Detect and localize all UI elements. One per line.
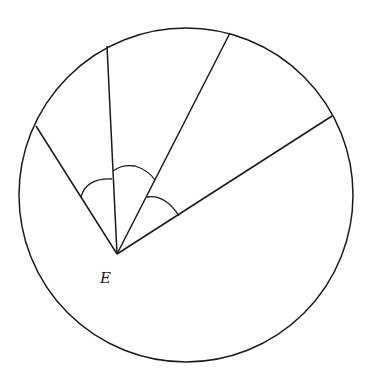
angle-mark-1: [81, 179, 112, 197]
angle-mark-2: [113, 166, 155, 180]
angle-mark-3: [147, 197, 179, 216]
point-label-e: E: [99, 269, 111, 287]
circle: [19, 28, 353, 362]
segment-upper-left: [107, 46, 117, 254]
segment-right: [117, 116, 332, 254]
geometry-diagram: E: [0, 0, 366, 374]
segment-left: [36, 126, 117, 254]
segment-upper-right: [117, 33, 230, 254]
